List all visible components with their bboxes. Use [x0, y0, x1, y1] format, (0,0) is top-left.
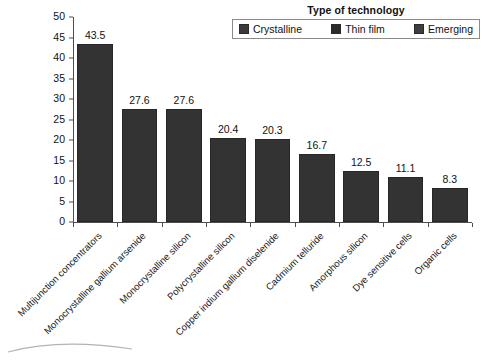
y-tick-label: 40 — [25, 51, 69, 63]
bar-group: 16.7 — [299, 17, 334, 222]
y-tick-label: 30 — [25, 92, 69, 104]
bar-value-label: 8.3 — [443, 173, 458, 185]
x-tick-mark — [383, 223, 384, 227]
bar-value-label: 27.6 — [174, 94, 194, 106]
bar-value-label: 20.3 — [262, 124, 282, 136]
x-tick-mark — [295, 223, 296, 227]
legend-title: Type of technology — [232, 4, 480, 16]
bar — [122, 109, 157, 222]
bar-group: 11.1 — [388, 17, 423, 222]
y-tick-label: 5 — [25, 195, 69, 207]
bar — [343, 171, 378, 222]
x-tick-mark — [117, 223, 118, 227]
x-tick-mark — [73, 223, 74, 227]
bar — [77, 44, 112, 222]
y-tick-label: 10 — [25, 174, 69, 186]
bar — [432, 188, 467, 222]
y-tick-label: 25 — [25, 113, 69, 125]
bar-group: 8.3 — [432, 17, 467, 222]
x-tick-mark — [250, 223, 251, 227]
bar-value-label: 11.1 — [396, 162, 416, 174]
x-tick-mark — [162, 223, 163, 227]
x-tick-mark — [428, 223, 429, 227]
x-category-label: Multijunction concentrators — [15, 230, 103, 318]
bar-group: 20.4 — [210, 17, 245, 222]
bar-value-label: 20.4 — [218, 123, 238, 135]
bar — [210, 138, 245, 222]
y-tick-label: 50 — [25, 10, 69, 22]
bar — [255, 139, 290, 222]
x-tick-mark — [206, 223, 207, 227]
bar-group: 20.3 — [255, 17, 290, 222]
bar-chart: Type of technology Crystalline Thin film… — [0, 0, 486, 363]
bar-value-label: 27.6 — [129, 94, 149, 106]
y-tick-label: 35 — [25, 72, 69, 84]
x-axis-line — [73, 222, 472, 223]
bar-group: 12.5 — [343, 17, 378, 222]
bar — [166, 109, 201, 222]
bar — [299, 154, 334, 222]
bar-group: 27.6 — [166, 17, 201, 222]
bar — [388, 177, 423, 223]
y-tick-label: 0 — [25, 215, 69, 227]
y-tick-label: 45 — [25, 31, 69, 43]
bar-value-label: 16.7 — [307, 139, 327, 151]
scan-artifact — [0, 330, 140, 360]
y-tick-label: 15 — [25, 154, 69, 166]
y-tick-label: 20 — [25, 133, 69, 145]
bar-value-label: 43.5 — [85, 29, 105, 41]
bar-group: 43.5 — [77, 17, 112, 222]
x-category-label: Organic cells — [412, 230, 459, 277]
x-tick-mark — [472, 223, 473, 227]
bar-group: 27.6 — [122, 17, 157, 222]
bar-value-label: 12.5 — [351, 156, 371, 168]
bars-layer: 43.527.627.620.420.316.712.511.18.3 — [73, 17, 472, 222]
x-tick-mark — [339, 223, 340, 227]
